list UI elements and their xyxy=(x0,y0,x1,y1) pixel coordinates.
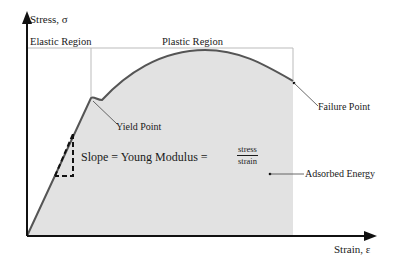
x-axis-arrow-icon xyxy=(364,231,377,241)
absorbed-energy-area xyxy=(27,50,293,236)
absorbed-energy-label: Adsorbed Energy xyxy=(305,169,375,179)
slope-equation-lhs: Slope = Young Modulus = xyxy=(81,151,208,163)
stress-strain-diagram: Stress, σ Strain, ε Elastic Region Plast… xyxy=(0,0,395,265)
y-axis-label: Stress, σ xyxy=(30,14,68,25)
fraction-numerator: stress xyxy=(237,145,258,156)
fraction-denominator: strain xyxy=(238,156,257,166)
x-axis-label: Strain, ε xyxy=(334,244,370,255)
elastic-region-label: Elastic Region xyxy=(30,37,92,48)
yield-point-label: Yield Point xyxy=(116,122,161,132)
slope-fraction: stress strain xyxy=(237,145,258,165)
plastic-region-label: Plastic Region xyxy=(162,37,223,48)
failure-point-label: Failure Point xyxy=(318,102,370,112)
failure-point-leader xyxy=(294,83,318,106)
